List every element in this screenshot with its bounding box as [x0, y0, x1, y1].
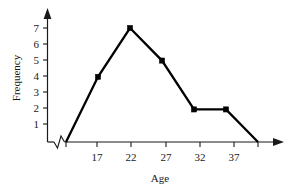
y-axis-title: Frequency: [10, 54, 22, 101]
data-series-group: [66, 25, 258, 142]
x-tick-label-17: 17: [92, 151, 104, 163]
x-tick-label-32: 32: [195, 151, 206, 163]
x-tick-label-22: 22: [126, 151, 137, 163]
x-axis-break-zigzag: [54, 136, 65, 148]
chart-canvas: 7 6 5 4 3 2 1 Frequency 17 22: [0, 0, 289, 192]
y-tick-label-6: 6: [34, 38, 40, 50]
y-tick-label-7: 7: [34, 22, 40, 34]
y-tick-label-5: 5: [34, 54, 40, 66]
data-point: [223, 107, 228, 112]
y-tick-label-4: 4: [34, 70, 40, 82]
y-tick-label-3: 3: [34, 86, 40, 98]
y-axis-arrowhead: [44, 8, 52, 19]
y-axis-group: 7 6 5 4 3 2 1 Frequency: [10, 8, 51, 142]
x-tick-label-27: 27: [161, 151, 173, 163]
data-point: [191, 107, 196, 112]
y-tick-label-1: 1: [34, 118, 40, 130]
frequency-polygon-chart: 7 6 5 4 3 2 1 Frequency 17 22: [0, 0, 289, 192]
x-axis-arrowhead: [273, 138, 284, 146]
data-point: [159, 58, 164, 63]
y-tick-label-2: 2: [34, 102, 40, 114]
x-axis-group: 17 22 27 32 37 Age: [48, 136, 285, 184]
data-point: [95, 74, 100, 79]
frequency-markers: [95, 25, 228, 112]
frequency-polyline: [66, 28, 258, 142]
x-axis-title: Age: [151, 172, 169, 184]
data-point: [127, 25, 132, 30]
x-tick-label-37: 37: [229, 151, 241, 163]
